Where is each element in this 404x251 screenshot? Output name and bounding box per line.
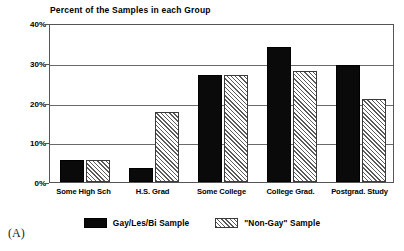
x-tick-label: H.S. Grad bbox=[136, 187, 170, 196]
bar-group bbox=[60, 25, 110, 182]
y-tick-label: 10% bbox=[30, 139, 46, 148]
bar bbox=[336, 65, 360, 182]
bar bbox=[267, 47, 291, 182]
chart-title: Percent of the Samples in each Group bbox=[50, 5, 211, 15]
bar bbox=[362, 99, 386, 182]
y-tick-label: 30% bbox=[30, 59, 46, 68]
y-tick-mark bbox=[45, 24, 49, 25]
bar bbox=[129, 168, 153, 182]
legend-label: "Non-Gay" Sample bbox=[244, 218, 320, 228]
x-tick-label: Postgrad. Study bbox=[331, 187, 388, 196]
bar bbox=[60, 160, 84, 182]
bar bbox=[198, 75, 222, 182]
legend-item: Gay/Les/Bi Sample bbox=[84, 218, 189, 228]
bar-group bbox=[336, 25, 386, 182]
panel-caption: (A) bbox=[8, 226, 25, 241]
plot-area bbox=[49, 24, 394, 183]
figure-panel-a: Percent of the Samples in each Group Gay… bbox=[0, 0, 404, 251]
legend-item: "Non-Gay" Sample bbox=[215, 218, 320, 228]
y-tick-mark bbox=[45, 143, 49, 144]
bar bbox=[293, 71, 317, 182]
bar-group bbox=[129, 25, 179, 182]
bar bbox=[155, 112, 179, 182]
bar-group bbox=[198, 25, 248, 182]
x-tick-label: Some High Sch bbox=[56, 187, 110, 196]
x-tick-label: Some College bbox=[197, 187, 246, 196]
y-tick-mark bbox=[45, 104, 49, 105]
y-tick-label: 40% bbox=[30, 20, 46, 29]
chart-legend: Gay/Les/Bi Sample"Non-Gay" Sample bbox=[0, 218, 404, 228]
bar-group bbox=[267, 25, 317, 182]
y-tick-label: 20% bbox=[30, 99, 46, 108]
bar bbox=[86, 160, 110, 182]
y-tick-mark bbox=[45, 64, 49, 65]
legend-swatch bbox=[215, 218, 238, 228]
y-tick-mark bbox=[45, 183, 49, 184]
bar bbox=[224, 75, 248, 182]
legend-label: Gay/Les/Bi Sample bbox=[113, 218, 189, 228]
legend-swatch bbox=[84, 218, 107, 228]
x-tick-label: College Grad. bbox=[266, 187, 314, 196]
